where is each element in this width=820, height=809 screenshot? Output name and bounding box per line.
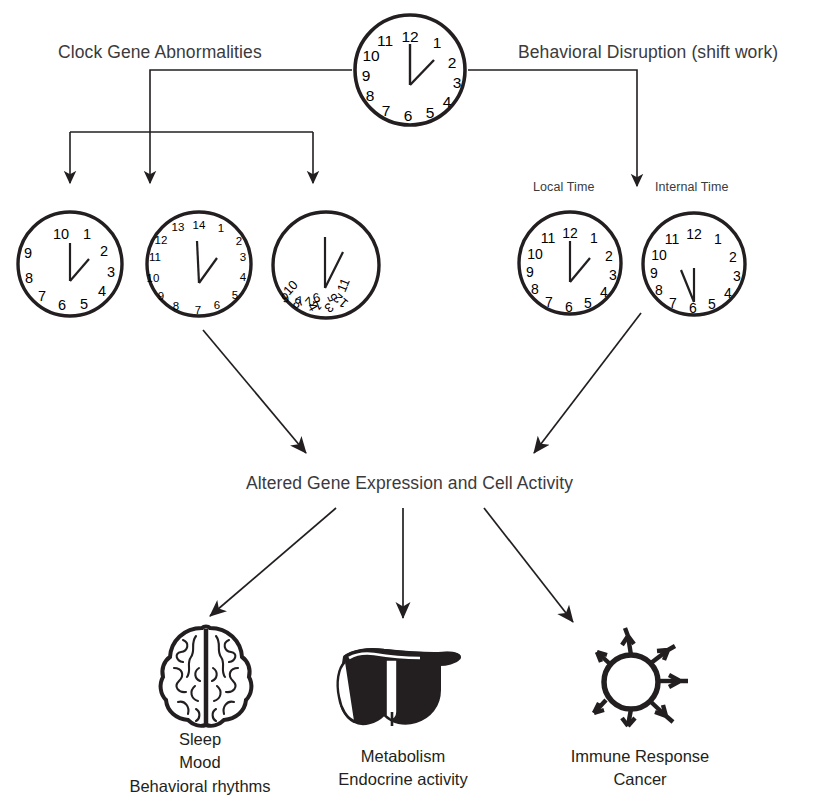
abnormal-clock-2: 14 1 2 3 4 5 6 7 8 9 10 11 12 13	[147, 212, 251, 316]
svg-text:2: 2	[236, 235, 242, 247]
svg-text:10: 10	[651, 247, 667, 263]
svg-text:9: 9	[362, 67, 371, 84]
connector-center-to-outcomes	[210, 508, 573, 622]
connector-to-center-node	[203, 313, 641, 453]
svg-text:10: 10	[362, 47, 380, 64]
svg-text:4: 4	[724, 285, 732, 301]
label-local-time: Local Time	[533, 180, 594, 194]
local-time-clock: 12 1 2 3 4 5 6 7 8 9 10 11	[519, 212, 621, 315]
svg-text:12: 12	[562, 225, 578, 241]
svg-text:2: 2	[605, 248, 613, 264]
svg-text:5: 5	[584, 295, 592, 311]
svg-text:6: 6	[565, 299, 573, 315]
svg-text:6: 6	[689, 300, 697, 316]
svg-text:4: 4	[98, 283, 106, 299]
svg-text:12: 12	[155, 234, 168, 246]
outcome-line-metabolism: Metabolism	[288, 745, 518, 768]
svg-text:11: 11	[665, 231, 680, 247]
svg-text:7: 7	[38, 288, 46, 304]
outcome-liver-labels: Metabolism Endocrine activity	[288, 745, 518, 792]
svg-text:1: 1	[714, 231, 722, 247]
brain-icon	[161, 627, 252, 727]
svg-text:4: 4	[240, 271, 247, 283]
immune-cell-icon	[594, 628, 688, 726]
svg-text:1: 1	[590, 230, 598, 246]
svg-text:8: 8	[173, 300, 179, 312]
svg-text:5: 5	[232, 289, 238, 301]
svg-text:10: 10	[147, 272, 160, 284]
svg-text:3: 3	[107, 264, 115, 280]
abnormal-clock-1: 10 1 2 3 4 5 6 7 8 9	[18, 212, 122, 316]
svg-text:3: 3	[733, 268, 741, 284]
svg-text:9: 9	[526, 264, 534, 280]
svg-text:1: 1	[83, 226, 91, 242]
svg-text:10: 10	[527, 246, 543, 262]
svg-text:5: 5	[80, 296, 88, 312]
label-internal-time: Internal Time	[655, 180, 729, 194]
svg-text:13: 13	[172, 221, 185, 233]
svg-text:7: 7	[545, 294, 553, 310]
svg-text:6: 6	[404, 107, 413, 124]
svg-text:12: 12	[686, 226, 702, 242]
svg-text:1: 1	[433, 34, 442, 51]
outcome-line-cancer: Cancer	[525, 768, 755, 791]
svg-text:8: 8	[25, 270, 33, 286]
svg-text:2: 2	[729, 249, 737, 265]
svg-text:9: 9	[24, 245, 32, 261]
svg-text:8: 8	[655, 282, 663, 298]
svg-text:9: 9	[158, 290, 164, 302]
svg-text:8: 8	[366, 87, 375, 104]
svg-text:11: 11	[377, 32, 393, 49]
svg-text:10: 10	[53, 226, 69, 242]
svg-text:6: 6	[214, 299, 220, 311]
svg-text:9: 9	[650, 265, 658, 281]
master-clock: 12 1 2 3 4 5 6 7 8 9 10 11	[355, 15, 465, 125]
svg-text:7: 7	[195, 304, 201, 316]
connector-clockgene-branch	[70, 70, 352, 183]
abnormal-clock-3: 10 9 8 7 4 6 2 1 3 5 11 12	[273, 212, 379, 318]
svg-text:1: 1	[218, 222, 224, 234]
svg-text:3: 3	[609, 267, 617, 283]
svg-text:12: 12	[401, 28, 418, 45]
diagram-canvas: 12 1 2 3 4 5 6 7 8 9 10 11 10 1 2	[0, 0, 820, 809]
svg-text:3: 3	[453, 74, 462, 91]
svg-text:8: 8	[531, 281, 539, 297]
svg-text:6: 6	[58, 297, 66, 313]
label-clock-gene-abnormalities: Clock Gene Abnormalities	[58, 42, 262, 63]
outcome-line-endocrine-activity: Endocrine activity	[288, 768, 518, 791]
svg-text:7: 7	[669, 295, 677, 311]
label-behavioral-disruption: Behavioral Disruption (shift work)	[518, 42, 778, 63]
svg-text:2: 2	[100, 243, 108, 259]
svg-text:4: 4	[600, 284, 608, 300]
svg-text:4: 4	[443, 93, 452, 110]
svg-text:7: 7	[382, 102, 391, 119]
outcome-line-immune-response: Immune Response	[525, 745, 755, 768]
diagram-graphics: 12 1 2 3 4 5 6 7 8 9 10 11 10 1 2	[0, 0, 820, 809]
label-altered-gene-expression: Altered Gene Expression and Cell Activit…	[246, 473, 573, 494]
svg-text:3: 3	[240, 251, 246, 263]
svg-text:11: 11	[541, 230, 556, 246]
svg-text:5: 5	[708, 296, 716, 312]
connector-behavioral-branch	[468, 70, 637, 186]
svg-text:2: 2	[448, 54, 457, 71]
svg-text:11: 11	[149, 251, 161, 263]
svg-text:14: 14	[193, 219, 206, 231]
svg-text:5: 5	[426, 104, 435, 121]
internal-time-clock: 12 1 2 3 4 5 6 7 8 9 10 11	[643, 213, 745, 316]
liver-icon	[338, 649, 460, 726]
outcome-immune-labels: Immune Response Cancer	[525, 745, 755, 792]
